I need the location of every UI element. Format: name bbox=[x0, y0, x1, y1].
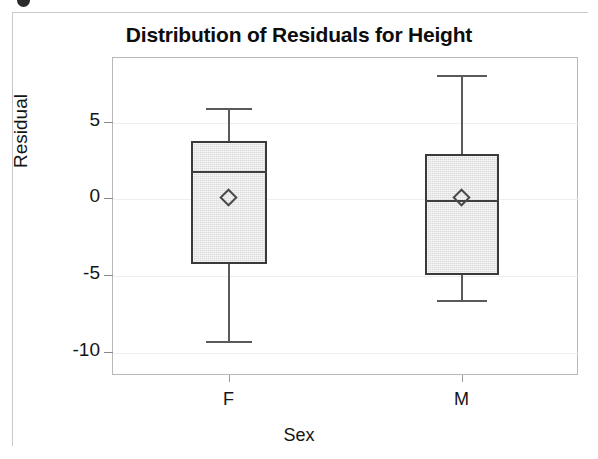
whisker-lower-stem bbox=[228, 264, 230, 341]
whisker-lower-cap bbox=[206, 341, 252, 343]
y-tick-label: 0 bbox=[38, 185, 100, 207]
chart-title: Distribution of Residuals for Height bbox=[0, 23, 598, 47]
gridline-y bbox=[113, 199, 579, 200]
y-tick-mark bbox=[104, 352, 113, 353]
y-tick-label: 5 bbox=[38, 109, 100, 131]
y-tick-label: -5 bbox=[38, 262, 100, 284]
x-tick-label-m: M bbox=[432, 389, 492, 410]
y-tick-mark bbox=[104, 198, 113, 199]
y-tick-mark bbox=[104, 122, 113, 123]
whisker-upper-stem bbox=[461, 75, 463, 153]
whisker-upper-stem bbox=[228, 108, 230, 142]
x-tick-mark bbox=[462, 375, 463, 382]
iqr-box bbox=[425, 154, 499, 275]
whisker-upper-cap bbox=[437, 75, 487, 77]
x-tick-label-f: F bbox=[199, 389, 259, 410]
x-axis-title: Sex bbox=[0, 425, 598, 446]
whisker-upper-cap bbox=[206, 108, 252, 110]
whisker-lower-cap bbox=[437, 300, 487, 302]
plot-area bbox=[112, 57, 578, 375]
figure-root: Distribution of Residuals for Height Res… bbox=[0, 0, 598, 459]
median-line bbox=[191, 171, 267, 173]
y-tick-mark bbox=[104, 275, 113, 276]
scan-artifact-mark bbox=[17, 0, 30, 7]
gridline-y bbox=[113, 353, 579, 354]
gridline-y bbox=[113, 123, 579, 124]
y-axis-title: Residual bbox=[10, 94, 32, 168]
gridline-y bbox=[113, 276, 579, 277]
y-tick-label: -10 bbox=[38, 339, 100, 361]
x-tick-mark bbox=[229, 375, 230, 382]
whisker-lower-stem bbox=[461, 275, 463, 300]
